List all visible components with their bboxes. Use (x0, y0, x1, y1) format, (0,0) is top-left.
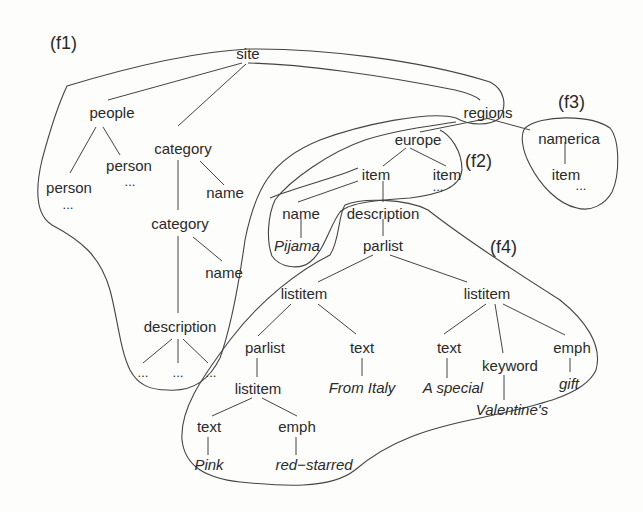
node-description: description (347, 205, 420, 222)
node-description-more: ... (138, 365, 149, 380)
node-parlist: parlist (245, 339, 286, 356)
node-namerica: namerica (538, 130, 600, 147)
node-text: text (197, 418, 222, 435)
node-listitem: listitem (281, 285, 328, 302)
node-item: item (362, 166, 390, 183)
node-europe: europe (395, 131, 442, 148)
node-description: description (144, 318, 217, 335)
tree-edges (70, 63, 570, 455)
fragment-label-f1: (f1) (50, 33, 77, 53)
node-description-more: ... (173, 365, 184, 380)
value-from-italy: From Italy (329, 379, 397, 396)
fragment-f1-inner-edge (248, 63, 480, 100)
node-item-more: ... (576, 178, 587, 193)
node-name: name (205, 264, 243, 281)
node-text: text (350, 339, 375, 356)
value-pijama: Pijama (274, 237, 320, 254)
value-pink: Pink (194, 456, 225, 473)
node-item-more: ... (433, 179, 444, 194)
node-person-more: ... (63, 197, 74, 212)
node-parlist: parlist (363, 237, 404, 254)
node-people: people (89, 104, 134, 121)
fragment-label-f3: (f3) (558, 92, 585, 112)
node-text: text (437, 339, 462, 356)
node-name: name (206, 184, 244, 201)
node-person: person (46, 179, 92, 196)
node-listitem: listitem (464, 285, 511, 302)
node-description-more: ... (206, 365, 217, 380)
diagram-canvas: (f1) (f3) (f2) (f4) site people person .… (0, 0, 643, 512)
node-emph: emph (278, 418, 316, 435)
node-keyword: keyword (482, 357, 538, 374)
node-category: category (151, 215, 209, 232)
node-person: person (106, 157, 152, 174)
xml-tree-diagram: (f1) (f3) (f2) (f4) site people person .… (0, 0, 643, 512)
node-category: category (154, 140, 212, 157)
value-a-special: A special (422, 379, 484, 396)
value-red-starred: red−starred (275, 456, 353, 473)
value-valentines: Valentine's (476, 401, 549, 418)
node-name: name (282, 205, 320, 222)
node-listitem: listitem (235, 380, 282, 397)
fragment-label-f4: (f4) (490, 237, 517, 257)
node-regions: regions (463, 104, 512, 121)
node-site: site (236, 45, 259, 62)
fragment-f2-inner-edge (270, 168, 358, 198)
node-emph: emph (553, 339, 591, 356)
fragment-label-f2: (f2) (465, 151, 492, 171)
value-gift: gift (559, 375, 580, 392)
node-person-more: ... (125, 174, 136, 189)
